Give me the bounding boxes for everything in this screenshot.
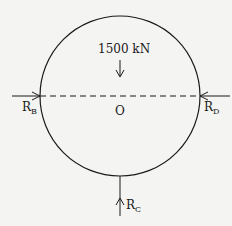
reaction-b-label: RB	[22, 101, 37, 113]
load-label: 1500 kN	[98, 43, 150, 55]
reaction-d-label: RD	[204, 101, 219, 113]
center-label: O	[115, 105, 125, 117]
diagram: 1500 kN O RB RD RC	[0, 0, 232, 226]
reaction-c-label: RC	[126, 199, 141, 211]
